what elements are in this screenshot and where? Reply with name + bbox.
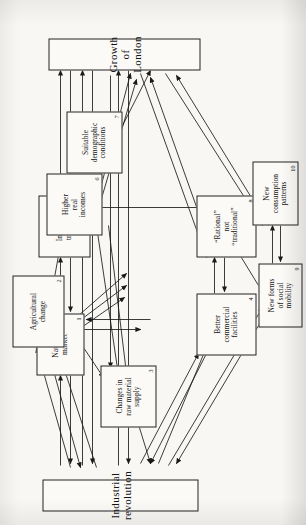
- node-number: 6: [92, 177, 99, 180]
- node-label: Changes in raw material supply: [115, 376, 141, 416]
- node-number: 1: [74, 317, 81, 320]
- node-number: 10: [288, 165, 295, 171]
- node-label: Suitable demographic conditions: [81, 121, 107, 163]
- edge-raw-to-incomes: [96, 225, 118, 375]
- node-commercial-facilities[interactable]: Better commercial facilities 4: [196, 293, 256, 355]
- node-number: 4: [246, 297, 253, 300]
- node-label: New forms of social mobility: [267, 277, 293, 313]
- node-rational-not-traditional[interactable]: “Rational” not “traditional” 8: [196, 195, 256, 257]
- node-label: New consumption patterns: [262, 172, 288, 213]
- node-social-mobility[interactable]: New forms of social mobility 9: [258, 263, 302, 327]
- node-consumption-patterns[interactable]: New consumption patterns 10: [252, 161, 298, 225]
- node-number: 9: [292, 267, 299, 270]
- figure-canvas: Industrial revolution Growth of London N…: [0, 0, 306, 525]
- node-industrial-revolution[interactable]: Industrial revolution: [42, 479, 198, 511]
- node-label: Better commercial facilities: [213, 305, 239, 343]
- edge-ir-to-facilities-2: [158, 349, 205, 463]
- node-number: 7: [112, 115, 119, 118]
- connector-layer: [0, 0, 306, 525]
- node-demographic-conditions[interactable]: Suitable demographic conditions 7: [66, 111, 122, 173]
- node-label: Industrial revolution: [108, 469, 132, 520]
- node-number: 2: [54, 279, 61, 282]
- node-label: Higher real incomes: [61, 190, 87, 217]
- node-higher-real-incomes-real[interactable]: Higher real incomes 6: [46, 173, 102, 235]
- node-raw-material-supply[interactable]: Changes in raw material supply 3: [100, 365, 156, 427]
- figure-canvas-rotated: Industrial revolution Growth of London N…: [0, 0, 306, 525]
- node-label: Growth of London: [106, 35, 142, 74]
- node-label: “Rational” not “traditional”: [213, 206, 239, 246]
- node-label: Agricultural change: [29, 291, 46, 330]
- node-agricultural-change[interactable]: Agricultural change 2: [12, 275, 64, 347]
- figure-page: Industrial revolution Growth of London N…: [0, 0, 306, 525]
- edge-agri-down-a: [78, 297, 124, 329]
- node-number: 3: [146, 369, 153, 372]
- node-growth-of-london[interactable]: Growth of London: [48, 38, 200, 70]
